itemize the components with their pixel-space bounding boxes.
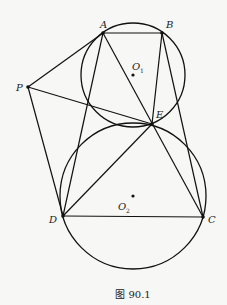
figure-caption: 图 90.1 xyxy=(115,289,150,300)
point-c xyxy=(201,215,205,219)
label-d: D xyxy=(48,214,57,225)
label-o2: O xyxy=(118,201,126,212)
label-e: E xyxy=(155,109,164,120)
label-p: P xyxy=(15,82,23,93)
label-a: A xyxy=(99,19,107,30)
label-o2-sub: 2 xyxy=(126,207,130,214)
center-o1 xyxy=(131,73,134,76)
geometry-diagram: A B P E D C O 1 O 2 图 90.1 xyxy=(0,0,227,305)
segment-dc xyxy=(63,216,203,217)
label-c: C xyxy=(208,214,216,225)
point-d xyxy=(61,214,65,218)
segment-de xyxy=(63,124,152,216)
segment-pa xyxy=(28,33,103,87)
segment-pd xyxy=(28,87,63,216)
point-a xyxy=(101,31,105,35)
point-b xyxy=(160,31,164,35)
point-p xyxy=(26,85,30,89)
center-o2 xyxy=(131,194,134,197)
label-o1: O xyxy=(132,61,140,72)
label-b: B xyxy=(165,19,173,30)
point-e xyxy=(150,122,154,126)
label-o1-sub: 1 xyxy=(140,67,144,74)
